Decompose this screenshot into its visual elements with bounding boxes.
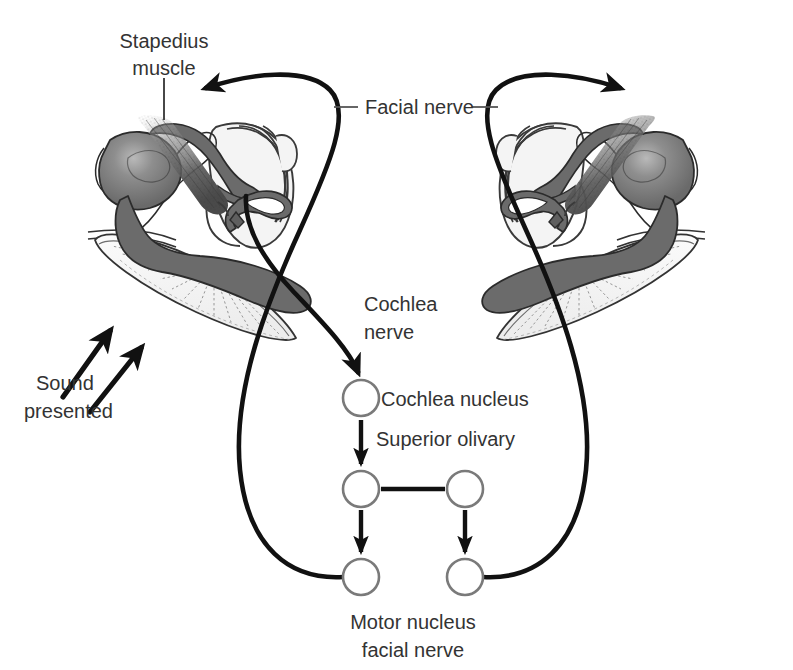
label-cochlea-nerve-line1: Cochlea <box>364 293 438 315</box>
node-superior-olivary-left[interactable] <box>343 471 379 507</box>
label-sound-presented-line1: Sound <box>36 372 94 394</box>
label-sound-presented-line2: presented <box>24 400 113 422</box>
label-superior-olivary: Superior olivary <box>376 428 515 450</box>
node-motor-nucleus-right[interactable] <box>447 559 483 595</box>
label-stapedius-muscle-line1: Stapedius <box>120 30 209 52</box>
label-motor-nucleus-line2: facial nerve <box>362 639 464 661</box>
label-cochlea-nerve-line2: nerve <box>364 321 414 343</box>
node-cochlea-nucleus[interactable] <box>343 380 379 416</box>
label-stapedius-muscle-line2: muscle <box>132 57 195 79</box>
label-cochlea-nucleus: Cochlea nucleus <box>381 388 529 410</box>
label-facial-nerve: Facial nerve <box>365 96 474 118</box>
label-motor-nucleus-line1: Motor nucleus <box>350 611 476 633</box>
node-motor-nucleus-left[interactable] <box>343 559 379 595</box>
node-superior-olivary-right[interactable] <box>447 471 483 507</box>
acoustic-reflex-diagram: Stapedius muscle Facial nerve Cochlea ne… <box>0 0 793 670</box>
diagram-canvas: Stapedius muscle Facial nerve Cochlea ne… <box>0 0 793 670</box>
